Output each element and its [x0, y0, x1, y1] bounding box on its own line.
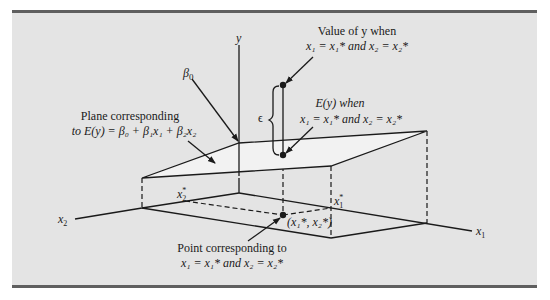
ey-line1: E(y) when	[315, 96, 365, 110]
point-line1: Point corresponding to	[177, 241, 286, 255]
x1-star-label: x1*	[333, 193, 343, 210]
expected-value-dot	[280, 152, 286, 158]
value-of-y-line1: Value of y when	[318, 24, 396, 38]
epsilon-label: ϵ	[258, 111, 263, 125]
x2-star-projection	[185, 201, 283, 215]
x1-axis-label: x1	[475, 224, 485, 240]
beta0-arrow	[192, 79, 238, 141]
regression-plane-diagram: y x2 x1 x2* x1* β0 Value of y when x₁ = …	[0, 0, 550, 300]
plane-line2: to E(y) = β₀ + β₁x₁ + β₂x₂	[72, 124, 197, 138]
plane-line1: Plane corresponding	[81, 109, 179, 123]
value-of-y-arrow	[286, 57, 313, 83]
x2-axis-line	[75, 208, 142, 219]
value-of-y-line2: x₁ = x₁* and x₂ = x₂*	[305, 39, 408, 53]
ground-front-right-edge	[331, 223, 427, 238]
y-axis-label: y	[235, 31, 242, 45]
ground-point-dot	[280, 212, 286, 218]
x1-axis-line	[239, 193, 472, 231]
ground-back-left-edge	[142, 193, 239, 208]
x1-star-projection	[283, 208, 331, 215]
point-line2: x₁ = x₁* and x₂ = x₂*	[180, 256, 283, 270]
x2-star-label: x2*	[176, 186, 186, 203]
ey-line2: x₁ = x₁* and x₂ = x₂*	[299, 112, 402, 126]
beta0-label: β0	[182, 66, 194, 82]
point-coords-label: (x₁*, x₂*)	[287, 215, 332, 229]
observed-value-dot	[280, 82, 286, 88]
x2-axis-label: x2	[57, 212, 67, 228]
